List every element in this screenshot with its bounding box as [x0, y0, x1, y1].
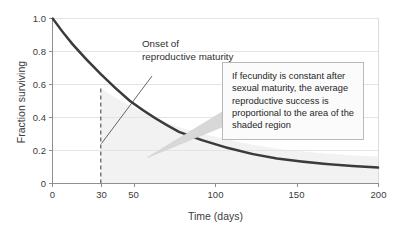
- x-tick-label-100: 100: [204, 190, 227, 200]
- shaded-region-callout-box: If fecundity is constant after sexual ma…: [222, 62, 364, 140]
- x-axis-title: Time (days): [52, 210, 379, 222]
- x-axis-ticks: [53, 184, 379, 188]
- onset-of-reproductive-maturity-annotation: Onset of reproductive maturity: [142, 38, 234, 63]
- x-tick-label-200: 200: [367, 190, 390, 200]
- x-tick-label-0: 0: [41, 190, 64, 200]
- x-tick-label-50: 50: [122, 190, 145, 200]
- y-axis-title: Fraction surviving: [15, 42, 27, 162]
- survivorship-curve-figure: 1.0 0.8 0.6 0.4 0.2 0 0 30 50 100 150 20…: [0, 0, 399, 235]
- x-tick-label-30: 30: [90, 190, 113, 200]
- x-tick-label-150: 150: [285, 190, 308, 200]
- y-tick-label-0: 0: [10, 179, 46, 189]
- y-axis-ticks: [49, 19, 53, 184]
- y-tick-label-1-0: 1.0: [10, 14, 46, 24]
